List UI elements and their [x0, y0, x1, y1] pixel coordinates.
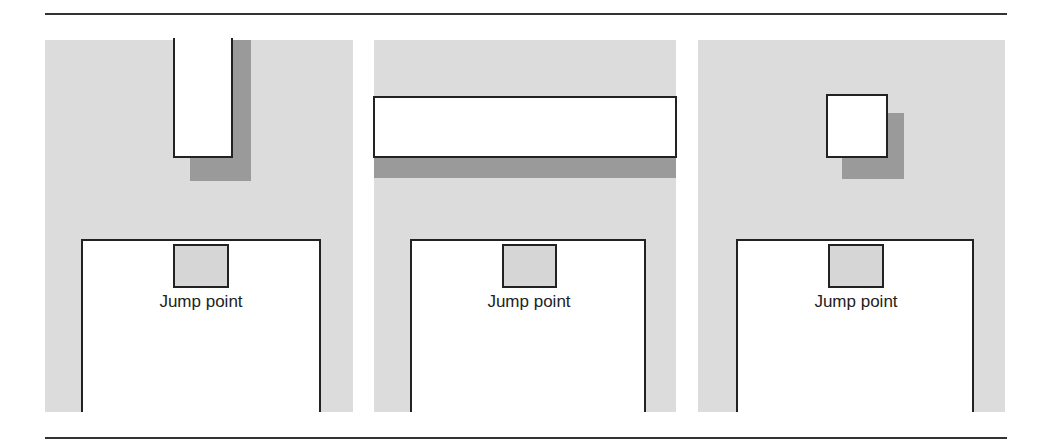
jump-point-marker	[828, 244, 884, 288]
square-obstacle	[826, 94, 888, 158]
jump-point-marker	[173, 244, 229, 288]
horizontal-bar-obstacle	[373, 96, 677, 158]
jump-point-label: Jump point	[469, 292, 589, 312]
bottom-rule	[45, 437, 1007, 439]
jump-point-label: Jump point	[141, 292, 261, 312]
top-rule	[45, 13, 1007, 15]
jump-point-label: Jump point	[796, 292, 916, 312]
jump-point-marker	[502, 244, 557, 288]
obstacle-shadow	[374, 157, 676, 178]
vertical-bar-obstacle	[173, 38, 233, 158]
